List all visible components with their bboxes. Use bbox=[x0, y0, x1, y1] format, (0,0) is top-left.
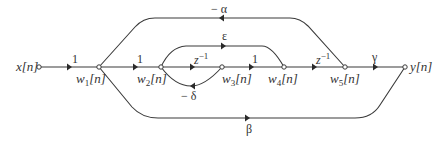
label-w4: w4[n] bbox=[268, 71, 298, 88]
edge-w3-w2-delta bbox=[161, 67, 222, 86]
label-w2: w2[n] bbox=[137, 71, 167, 88]
gain-w2-w3: z−1 bbox=[193, 51, 208, 67]
arrow-right-icon bbox=[221, 43, 226, 50]
signal-flow-graph: x[n] y[n] w1[n] w2[n] w3[n] w4[n] w5[n] … bbox=[0, 0, 446, 145]
node-y bbox=[403, 65, 407, 69]
gain-epsilon: ε bbox=[222, 29, 227, 43]
gain-beta: β bbox=[246, 122, 252, 136]
node-w2 bbox=[159, 65, 163, 69]
arrow-right-icon bbox=[373, 64, 378, 71]
arrow-right-icon bbox=[245, 115, 250, 122]
label-y: y[n] bbox=[408, 59, 432, 74]
gain-x-w1: 1 bbox=[72, 52, 78, 66]
gain-alpha: − α bbox=[211, 2, 228, 16]
label-x: x[n] bbox=[15, 59, 38, 74]
node-w1 bbox=[97, 65, 101, 69]
gain-w3-w4: 1 bbox=[252, 52, 258, 66]
gain-delta: − δ bbox=[181, 89, 197, 103]
label-w3: w3[n] bbox=[222, 71, 252, 88]
node-w5 bbox=[343, 65, 347, 69]
gain-w1-w2: 1 bbox=[137, 52, 143, 66]
edge-w2-w4-epsilon bbox=[161, 46, 284, 67]
gain-w4-w5: z−1 bbox=[315, 51, 330, 67]
label-w5: w5[n] bbox=[330, 71, 360, 88]
label-w1: w1[n] bbox=[76, 71, 106, 88]
gain-gamma: γ bbox=[371, 50, 378, 64]
node-w3 bbox=[220, 65, 224, 69]
node-w4 bbox=[282, 65, 286, 69]
